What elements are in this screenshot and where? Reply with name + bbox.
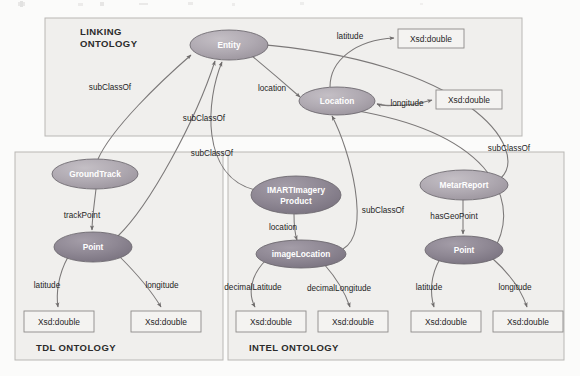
ontology-graph-svg: LINKING ONTOLOGY TDL ONTOLOGY INTEL ONTO… (0, 0, 580, 376)
node-imagelocation-label: imageLocation (272, 249, 331, 259)
literal-node-intel-decimallongitude: Xsd:double (318, 311, 388, 332)
edge-label-location-longitude: longitude (390, 99, 424, 108)
ontology-box-linking-label-line1: LINKING (80, 26, 122, 37)
node-location-label: Location (320, 96, 355, 106)
node-imart-imagery-product-ellipse (251, 176, 341, 214)
edge-label-hasgeopoint: hasGeoPoint (430, 212, 478, 221)
ontology-box-tdl-label: TDL ONTOLOGY (36, 342, 116, 353)
edge-label-metarreport-subclassof: subClassOf (488, 144, 531, 153)
node-entity-label: Entity (217, 40, 240, 50)
literal-node-intel-decimallatitude: Xsd:double (236, 311, 306, 332)
edge-label-trackpoint: trackPoint (64, 211, 101, 220)
node-imart-label-line1: IMARTImagery (267, 185, 325, 195)
node-entity: Entity (190, 30, 268, 60)
literal-label: Xsd:double (332, 317, 374, 327)
ontology-box-linking-label-line2: ONTOLOGY (80, 38, 138, 49)
literal-node-linking-longitude: Xsd:double (436, 90, 502, 109)
node-imart-label-line2: Product (280, 196, 312, 206)
node-metarreport-label: MetarReport (440, 180, 489, 190)
literal-label: Xsd:double (507, 317, 549, 327)
literal-node-linking-latitude: Xsd:double (398, 29, 464, 48)
edge-label-intelpoint-longitude: longitude (498, 283, 532, 292)
node-imagelocation: imageLocation (256, 240, 346, 268)
literal-node-tdl-latitude: Xsd:double (24, 311, 94, 332)
literal-node-intel-latitude: Xsd:double (411, 311, 481, 332)
literal-label: Xsd:double (425, 317, 467, 327)
edge-label-intelpoint-latitude: latitude (416, 283, 443, 292)
literal-label: Xsd:double (410, 34, 452, 44)
edge-label-groundtrack-subclassof: subClassOf (89, 83, 132, 92)
node-location: Location (299, 87, 375, 115)
ontology-box-intel-label: INTEL ONTOLOGY (249, 342, 339, 353)
edge-label-imart-location: location (269, 223, 298, 232)
edge-label-entity-location: location (258, 84, 287, 93)
literal-node-intel-longitude: Xsd:double (493, 311, 563, 332)
node-groundtrack-label: GroundTrack (69, 169, 121, 179)
literal-label: Xsd:double (145, 317, 187, 327)
node-tdl-point: Point (54, 232, 132, 262)
node-intel-point: Point (425, 236, 503, 264)
node-imart-imagery-product: IMARTImagery Product (251, 176, 341, 214)
edge-label-imart-subclassof: subClassOf (191, 149, 234, 158)
node-metarreport: MetarReport (420, 170, 508, 200)
node-intel-point-label: Point (454, 245, 475, 255)
edge-label-tdlpoint-subclassof: subClassOf (183, 114, 226, 123)
literal-node-tdl-longitude: Xsd:double (131, 311, 201, 332)
edge-label-decimallatitude: decimalLatitude (224, 283, 282, 292)
literal-label: Xsd:double (448, 95, 490, 105)
edge-label-decimallongitude: decimalLongitude (307, 284, 372, 293)
edge-label-imagelocation-subclassof: subClassOf (362, 206, 405, 215)
node-tdl-point-label: Point (83, 242, 104, 252)
edge-label-tdlpoint-longitude: longitude (145, 281, 179, 290)
literal-label: Xsd:double (250, 317, 292, 327)
node-groundtrack: GroundTrack (52, 159, 138, 189)
edge-label-tdlpoint-latitude: latitude (34, 281, 61, 290)
ontology-diagram-page: LINKING ONTOLOGY TDL ONTOLOGY INTEL ONTO… (0, 0, 580, 376)
edge-label-location-latitude: latitude (337, 32, 364, 41)
literal-label: Xsd:double (38, 317, 80, 327)
